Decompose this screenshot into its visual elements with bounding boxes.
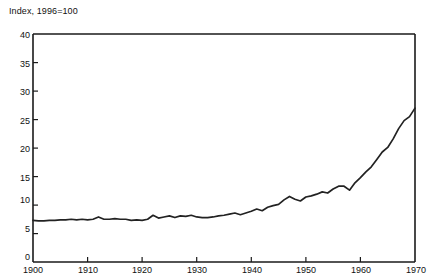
plot-area bbox=[0, 0, 427, 280]
chart-container: Index, 1996=100 40 35 30 25 20 15 10 5 0… bbox=[0, 0, 427, 280]
series-line-index bbox=[33, 108, 415, 221]
